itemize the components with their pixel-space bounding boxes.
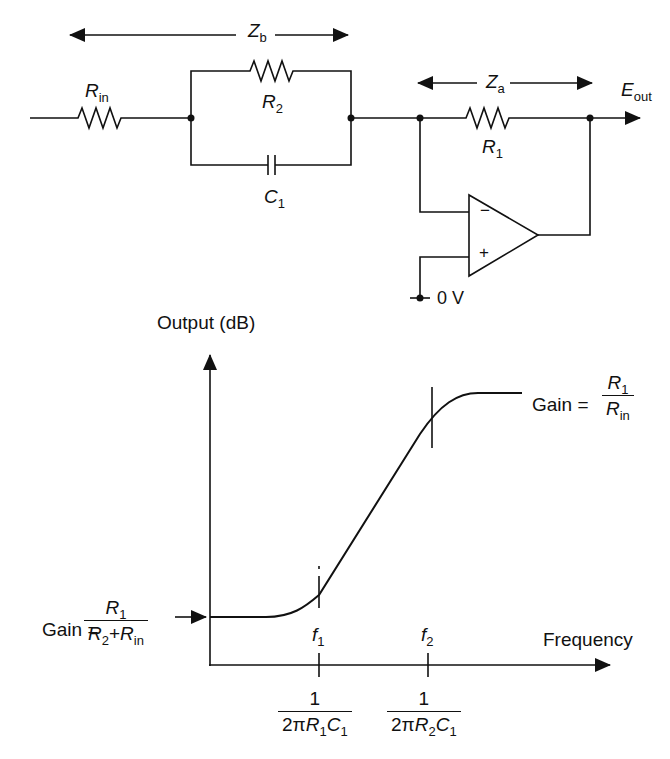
opamp-plus-sign: + bbox=[479, 244, 489, 261]
f2-formula: 1 2πR2C1 bbox=[387, 689, 461, 734]
response-curve bbox=[210, 393, 522, 617]
x-axis-label: Frequency bbox=[543, 630, 633, 649]
node-dot bbox=[348, 115, 355, 122]
y-axis-label: Output (dB) bbox=[157, 313, 255, 332]
node-dot bbox=[417, 115, 424, 122]
ground-dot bbox=[417, 295, 424, 302]
label-c1: C1 bbox=[264, 187, 285, 206]
high-gain-fraction: R1 Rin bbox=[602, 373, 634, 418]
label-rin: Rin bbox=[85, 81, 109, 100]
low-gain-fraction: R1 R2+Rin bbox=[84, 598, 148, 643]
f1-label: f1 bbox=[312, 625, 325, 644]
label-zb: Zb bbox=[248, 21, 267, 40]
rin-resistor bbox=[30, 108, 191, 128]
high-gain-prefix: Gain = bbox=[532, 395, 589, 414]
opamp-minus-sign: − bbox=[480, 202, 490, 219]
c1-capacitor bbox=[191, 118, 351, 175]
r1-resistor bbox=[420, 108, 590, 128]
node-dot bbox=[587, 115, 594, 122]
label-ground-0v: 0 V bbox=[437, 289, 464, 307]
node-dot bbox=[188, 115, 195, 122]
f2-label: f2 bbox=[421, 625, 434, 644]
label-eout: Eout bbox=[621, 80, 652, 99]
label-r2: R2 bbox=[262, 92, 283, 111]
label-r1: R1 bbox=[482, 137, 503, 156]
f1-formula: 1 2πR1C1 bbox=[278, 689, 352, 734]
label-za: Za bbox=[486, 72, 505, 91]
